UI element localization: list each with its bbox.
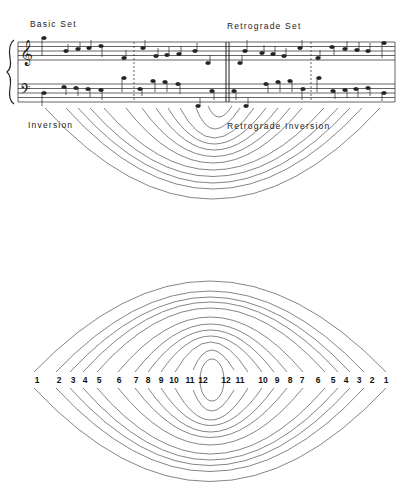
lens-number: 4: [344, 375, 349, 385]
lens-number: 8: [288, 375, 293, 385]
lens-number: 10: [258, 375, 267, 385]
lens-number: 8: [146, 375, 151, 385]
lens-number: 7: [134, 375, 139, 385]
lens-number: 3: [357, 375, 362, 385]
lens-number: 9: [159, 375, 164, 385]
lens-number: 2: [57, 375, 62, 385]
lens-number: 6: [117, 375, 122, 385]
lens-number: 5: [97, 375, 102, 385]
lens-number: 4: [83, 375, 88, 385]
bass-clef-icon: 𝄢: [20, 81, 30, 100]
lens-number: 2: [370, 375, 375, 385]
lens-number: 7: [300, 375, 305, 385]
lens-number: 1: [35, 375, 40, 385]
lens-number: 1: [384, 375, 389, 385]
treble-notes: [42, 36, 387, 64]
top-arcs: [45, 106, 380, 199]
lens-number: 6: [316, 375, 321, 385]
score-and-arcs: 𝄞 𝄢: [0, 0, 415, 501]
lens-number: 9: [275, 375, 280, 385]
lens-number: 11: [186, 375, 195, 385]
lens-number: 12: [221, 375, 230, 385]
lens-number: 12: [198, 375, 207, 385]
lens-number: 3: [71, 375, 76, 385]
lens-number: 10: [169, 375, 178, 385]
lens-number: 11: [236, 375, 245, 385]
lens-number: 5: [331, 375, 336, 385]
treble-clef-icon: 𝄞: [20, 40, 33, 66]
bass-notes: [42, 76, 387, 107]
